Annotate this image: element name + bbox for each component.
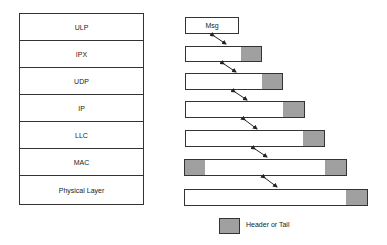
legend-label: Header or Tail xyxy=(246,221,289,228)
legend-swatch xyxy=(219,218,240,234)
double-arrow-icon xyxy=(0,0,387,245)
